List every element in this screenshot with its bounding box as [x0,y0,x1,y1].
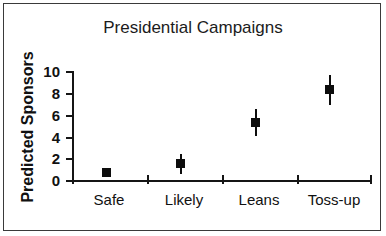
y-tick-label-0: 0 [20,173,60,188]
x-tick-boundary-0 [72,175,74,184]
data-point-tossup [325,85,334,94]
y-tick-6 [66,115,74,117]
data-point-leans [251,118,260,127]
x-tick-boundary-1 [147,175,149,184]
plot-area: 0 2 4 6 8 10 Safe Likely Leans Toss-up [0,0,386,236]
data-point-safe [102,168,111,177]
chart-figure: Presidential Campaigns Predicted Sponsor… [0,0,386,236]
y-axis-line [72,72,74,182]
y-tick-2 [66,158,74,160]
y-tick-label-10: 10 [20,64,60,79]
y-tick-10 [66,71,74,73]
y-tick-label-2: 2 [20,151,60,166]
y-tick-label-6: 6 [20,108,60,123]
x-tick-label-tossup: Toss-up [289,191,379,208]
y-tick-label-8: 8 [20,86,60,101]
y-tick-8 [66,93,74,95]
x-tick-boundary-2 [222,175,224,184]
y-tick-4 [66,137,74,139]
x-tick-boundary-3 [297,175,299,184]
y-tick-label-4: 4 [20,130,60,145]
data-point-likely [176,159,185,168]
x-tick-boundary-4 [370,175,372,184]
